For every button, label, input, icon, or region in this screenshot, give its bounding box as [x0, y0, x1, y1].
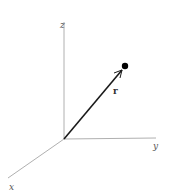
coordinate-diagram: z y x r — [0, 0, 169, 193]
x-axis — [8, 139, 64, 178]
x-axis-label: x — [9, 182, 14, 192]
y-axis-label: y — [152, 141, 159, 151]
z-axis-label: z — [59, 20, 65, 30]
y-axis — [64, 138, 156, 139]
vector-label: r — [113, 86, 118, 96]
point-marker — [122, 63, 128, 69]
position-vector — [64, 70, 122, 139]
